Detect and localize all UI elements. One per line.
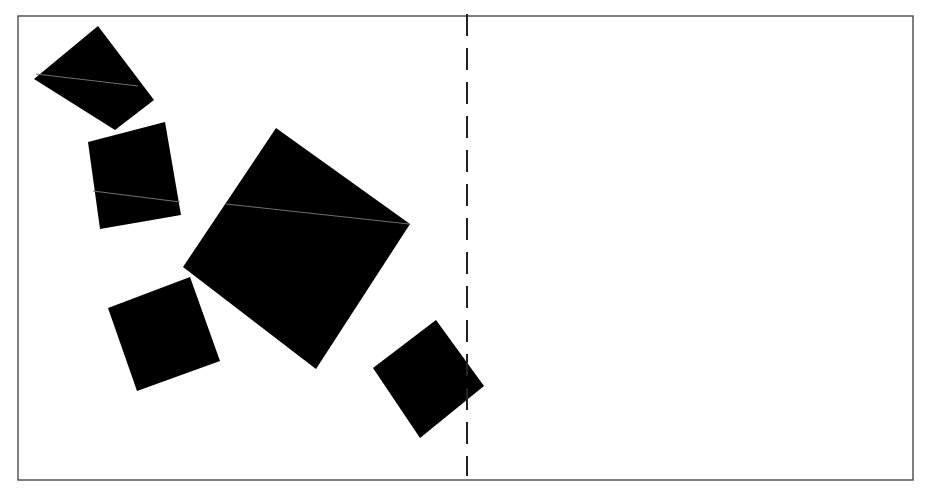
diagram-canvas xyxy=(0,0,926,489)
square-top-left xyxy=(34,26,154,130)
square-lower-left xyxy=(108,277,220,391)
frame xyxy=(18,16,913,480)
square-upper-mid xyxy=(88,122,181,229)
square-large-center xyxy=(183,128,410,369)
squares-group xyxy=(34,26,484,438)
